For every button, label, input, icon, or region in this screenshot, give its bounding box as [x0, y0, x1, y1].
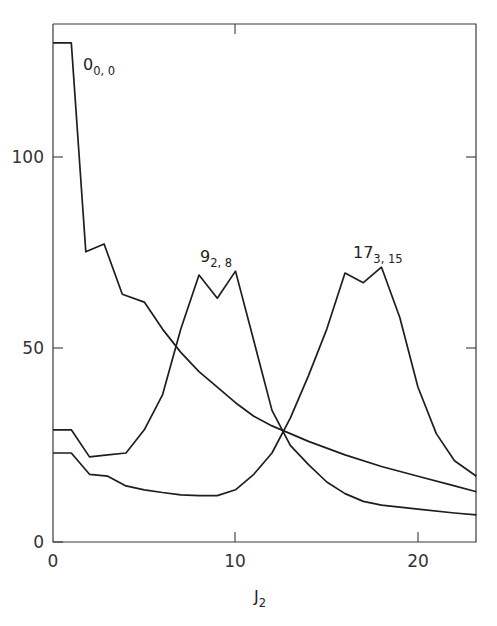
annotation-9-2-8: 92, 8	[200, 247, 232, 270]
x-tick-label-0: 0	[48, 551, 59, 571]
x-axis-label: J2	[253, 587, 266, 610]
curve-annotations: 00, 0 92, 8 173, 15	[83, 55, 403, 270]
x-tick-label-20: 20	[407, 551, 429, 571]
y-tick-label-50: 50	[22, 338, 44, 358]
y-tick-label-0: 0	[33, 532, 44, 552]
curves	[53, 43, 476, 515]
x-tick-label-10: 10	[224, 551, 246, 571]
chart: 0 50 100 0 10 20 J2 00, 0 92, 8 173, 15	[0, 0, 497, 626]
x-axis-label-sub: 2	[259, 596, 266, 610]
curve-0-0-0	[53, 43, 476, 492]
plot-frame	[53, 24, 476, 542]
annotation-17-3-15: 173, 15	[353, 243, 403, 266]
annotation-0-0-0: 00, 0	[83, 55, 115, 78]
axis-ticks	[53, 24, 476, 542]
tick-labels: 0 50 100 0 10 20	[12, 147, 429, 571]
svg-text:J2: J2	[253, 587, 266, 610]
y-tick-label-100: 100	[12, 147, 44, 167]
curve-9-2-8	[53, 271, 476, 515]
